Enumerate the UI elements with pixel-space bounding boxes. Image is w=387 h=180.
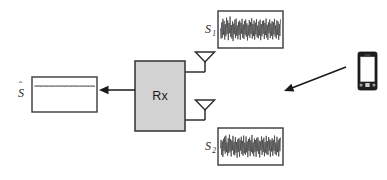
signal-box-s-hat	[32, 77, 97, 112]
antenna-lower-dish	[196, 100, 215, 110]
antenna-upper-dish	[196, 52, 215, 62]
signal-box-s1-subscript: 1	[212, 29, 216, 38]
diagram-canvas: Rx S1S2Sˆ	[0, 0, 387, 180]
signal-box-s1	[218, 11, 283, 48]
output-arrow-head	[99, 86, 109, 94]
signal-box-s2-label-text: S	[205, 139, 211, 153]
signal-box-s1-label: S1	[205, 22, 216, 38]
antenna-upper	[196, 52, 215, 72]
mobile-phone-icon-speaker	[365, 54, 371, 55]
transmission-arrow	[284, 67, 346, 91]
signal-box-s1-label-text: S	[205, 22, 211, 36]
transmission-arrow-head	[284, 84, 294, 92]
antenna-lower	[196, 100, 215, 120]
mobile-phone-icon-screen	[361, 57, 375, 82]
signal-box-s2-label: S2	[205, 139, 216, 155]
transmission-arrow-shaft	[291, 67, 346, 88]
signal-box-s2-subscript: 2	[212, 146, 216, 155]
mobile-phone-icon[interactable]	[358, 52, 377, 90]
receiver-block-label: Rx	[152, 89, 168, 103]
antenna-connectors	[185, 72, 205, 120]
receiver-diagram: Rx S1S2Sˆ	[0, 0, 387, 180]
output-arrow	[99, 86, 135, 94]
receiver-block[interactable]: Rx	[135, 61, 185, 131]
signal-box-s2	[218, 128, 283, 165]
mobile-phone-icon-home-button[interactable]	[365, 83, 369, 87]
mobile-phone-icon-right-key[interactable]	[373, 84, 376, 87]
antenna-group	[196, 52, 215, 120]
mobile-phone-group[interactable]	[358, 52, 377, 90]
signal-box-s-hat-label: Sˆ	[18, 80, 24, 100]
mobile-phone-icon-left-key[interactable]	[360, 84, 363, 87]
signal-box-s-hat-frame	[32, 77, 97, 112]
